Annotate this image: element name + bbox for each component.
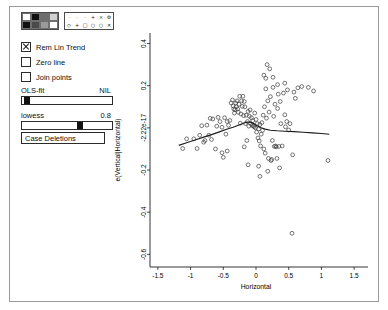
data-point[interactable] [271,75,275,79]
data-point[interactable] [185,137,189,141]
data-point[interactable] [215,124,219,128]
data-point[interactable] [264,87,268,91]
data-point[interactable] [283,81,287,85]
symbol-cell-0[interactable]: · [65,13,73,21]
data-point[interactable] [266,99,270,103]
data-point[interactable] [286,88,290,92]
symbol-cell-3[interactable]: + [89,13,97,21]
data-point[interactable] [254,118,258,122]
data-point[interactable] [259,132,263,136]
data-point[interactable] [211,117,215,121]
color-swatch-4[interactable] [22,21,31,29]
data-point[interactable] [214,147,218,151]
color-swatch-2[interactable] [40,13,49,21]
data-point[interactable] [284,125,288,129]
data-point[interactable] [246,163,250,167]
data-point[interactable] [259,144,263,148]
data-point[interactable] [208,116,212,120]
slider-track-ols-fit[interactable] [21,96,113,105]
data-point[interactable] [276,92,280,96]
symbol-cell-2[interactable]: · [81,13,89,21]
checkbox-zero-line-box[interactable] [21,57,31,67]
data-point[interactable] [275,157,279,161]
data-point[interactable] [300,85,304,89]
data-point[interactable] [225,149,229,153]
slider-track-lowess[interactable] [21,121,113,130]
data-point[interactable] [181,147,185,151]
data-point[interactable] [258,174,262,178]
data-point[interactable] [290,231,294,235]
data-point[interactable] [279,122,283,126]
data-point[interactable] [278,166,282,170]
data-point[interactable] [312,89,316,93]
data-point[interactable] [262,73,266,77]
symbol-cell-9[interactable]: ○ [89,21,97,29]
data-point[interactable] [243,105,247,109]
data-point[interactable] [221,155,225,159]
data-point[interactable] [242,145,246,149]
data-point[interactable] [257,164,261,168]
data-point[interactable] [306,85,310,89]
case-deletions-button[interactable]: Case Deletions [21,132,105,144]
data-point[interactable] [292,90,296,94]
data-point[interactable] [210,138,214,142]
data-point[interactable] [218,120,222,124]
data-point[interactable] [263,105,267,109]
data-point[interactable] [261,113,265,117]
data-point[interactable] [265,63,269,67]
checkbox-row-rem-lin-trend[interactable]: Rem Lin Trend [21,42,85,52]
data-point[interactable] [223,116,227,120]
data-point[interactable] [291,153,295,157]
data-point[interactable] [224,132,228,136]
color-swatch-5[interactable] [31,21,40,29]
symbol-cell-6[interactable]: ◇ [65,21,73,29]
data-point[interactable] [273,102,277,106]
symbol-cell-10[interactable]: ○ [97,21,105,29]
data-point[interactable] [242,100,246,104]
data-point[interactable] [326,159,330,163]
checkbox-join-points-box[interactable] [21,72,31,82]
data-point[interactable] [296,86,300,90]
data-point[interactable] [220,125,224,129]
data-point[interactable] [262,147,266,151]
data-point[interactable] [278,100,282,104]
data-point[interactable] [276,107,280,111]
symbol-cell-8[interactable]: □ [81,21,89,29]
data-point[interactable] [200,124,204,128]
data-point[interactable] [195,147,199,151]
color-palette[interactable] [21,12,59,30]
data-point[interactable] [272,114,276,118]
symbol-cell-1[interactable]: · [73,13,81,21]
data-point[interactable] [269,95,273,99]
data-point[interactable] [271,85,275,89]
color-swatch-7[interactable] [49,21,58,29]
data-point[interactable] [216,115,220,119]
symbol-cell-4[interactable]: × [97,13,105,21]
color-swatch-3[interactable] [49,13,58,21]
checkbox-rem-lin-trend-box[interactable] [21,42,31,52]
data-point[interactable] [266,169,270,173]
data-point[interactable] [288,122,292,126]
data-point[interactable] [282,91,286,95]
color-swatch-1[interactable] [31,13,40,21]
data-point[interactable] [293,96,297,100]
slider-thumb-lowess[interactable] [77,122,83,129]
data-point[interactable] [276,83,280,87]
data-point[interactable] [263,151,267,155]
checkbox-row-zero-line[interactable]: Zero line [21,57,65,67]
data-point[interactable] [240,99,244,103]
data-point[interactable] [220,151,224,155]
data-point[interactable] [227,123,231,127]
color-swatch-0[interactable] [22,13,31,21]
checkbox-row-join-points[interactable]: Join points [21,72,72,82]
data-point[interactable] [270,139,274,143]
data-point[interactable] [245,139,249,143]
symbol-cell-7[interactable]: + [73,21,81,29]
data-point[interactable] [267,110,271,114]
data-point[interactable] [283,113,287,117]
data-point[interactable] [268,67,272,71]
color-swatch-6[interactable] [40,21,49,29]
data-point[interactable] [205,123,209,127]
data-point[interactable] [198,133,202,137]
data-point[interactable] [253,111,257,115]
